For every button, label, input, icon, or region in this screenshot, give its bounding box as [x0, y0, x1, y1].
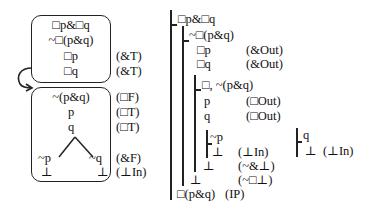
bottom-box-rule-1: (□F): [116, 91, 139, 104]
proof-line-12: □(p&q): [177, 188, 215, 201]
left-branch-line-1: ~p: [38, 152, 51, 165]
side-line-1: q: [303, 129, 309, 142]
proof-line-7: q: [204, 110, 210, 123]
proof-rule-11: (~□⊥): [238, 174, 272, 187]
top-box-line-2: ~□(p&q): [31, 34, 111, 47]
left-branch-line-2: ⊥: [41, 166, 53, 179]
proof-line-3: □p: [197, 44, 211, 57]
right-branch-line-1: ~q: [89, 152, 102, 165]
proof-bar-1: [170, 10, 172, 200]
proof-line-4: □q: [197, 58, 211, 71]
proof-rule-12: (IP): [225, 188, 244, 201]
branch-rule-2: (⊥In): [116, 166, 147, 179]
proof-line-9: ⊥: [212, 146, 224, 159]
bottom-box-line-3: q: [31, 121, 111, 134]
proof-line-11: ⊥: [190, 174, 202, 187]
top-box-rule-3: (&T): [116, 50, 142, 63]
proof-hyp-line-1: [170, 24, 177, 26]
branch-rule-1: (&F): [116, 152, 141, 165]
side-hyp-line: [296, 141, 302, 143]
proof-line-10: ⊥: [203, 160, 215, 173]
right-branch-line-2: ⊥: [97, 166, 109, 179]
side-rule: (⊥In): [323, 145, 354, 158]
bottom-box-line-1: ~(p&q): [31, 91, 111, 104]
proof-line-1: □p&□q: [178, 13, 215, 26]
proof-hyp-line-2: [182, 40, 189, 42]
proof-rule-4: (&Out): [246, 58, 283, 71]
proof-line-6: p: [204, 95, 210, 108]
top-box-line-3: □p: [31, 50, 111, 63]
proof-bar-2: [182, 26, 184, 186]
proof-line-5: □, ~(p&q): [202, 79, 253, 92]
side-line-2: ⊥: [305, 145, 317, 158]
proof-rule-6: (□Out): [246, 95, 281, 108]
bottom-box-line-2: p: [31, 106, 111, 119]
proof-line-2: ~□(p&q): [189, 29, 234, 42]
proof-hyp-line-3: [194, 89, 201, 91]
top-box-rule-4: (&T): [116, 65, 142, 78]
top-box-line-4: □q: [31, 65, 111, 78]
proof-line-8: ~p: [210, 131, 223, 144]
proof-rule-7: (□Out): [246, 110, 281, 123]
proof-rule-3: (&Out): [246, 44, 283, 57]
bottom-box-rule-2: (□T): [116, 106, 140, 119]
proof-rule-9: (⊥In): [238, 146, 269, 159]
top-box-line-1: □p&□q: [31, 19, 111, 32]
proof-rule-10: (~&⊥): [238, 160, 275, 173]
bottom-box-rule-3: (□T): [116, 121, 140, 134]
